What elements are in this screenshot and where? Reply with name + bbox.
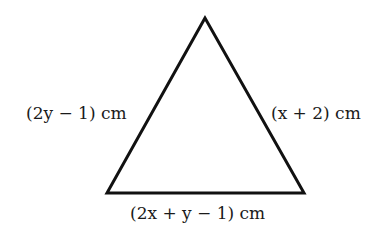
left-side-label: (2y − 1) cm [26,105,127,122]
triangle-diagram: (2y − 1) cm (x + 2) cm (2x + y − 1) cm [0,0,388,233]
bottom-side-label: (2x + y − 1) cm [130,205,265,222]
right-side-label: (x + 2) cm [271,105,361,122]
